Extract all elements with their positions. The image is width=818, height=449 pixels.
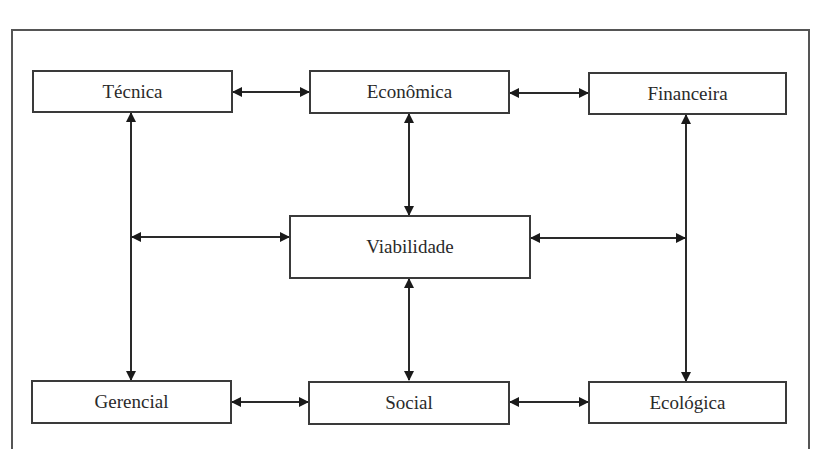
node-label: Financeira — [647, 83, 727, 105]
node-label: Social — [385, 392, 433, 414]
node-label: Viabilidade — [366, 236, 454, 258]
node-ecologica: Ecológica — [588, 381, 787, 424]
node-gerencial: Gerencial — [31, 380, 232, 424]
node-label: Ecológica — [650, 392, 726, 414]
node-economica: Econômica — [309, 70, 510, 114]
node-label: Gerencial — [95, 391, 169, 413]
node-label: Técnica — [102, 81, 162, 103]
node-social: Social — [308, 381, 510, 425]
node-financeira: Financeira — [588, 72, 787, 115]
node-label: Econômica — [367, 81, 452, 103]
node-viabilidade: Viabilidade — [289, 215, 531, 279]
node-tecnica: Técnica — [32, 70, 233, 113]
